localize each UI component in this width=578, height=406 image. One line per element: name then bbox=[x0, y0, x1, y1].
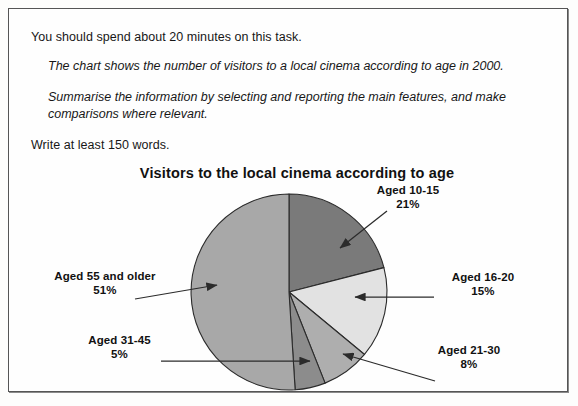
slice-label-text-aged-10-15: Aged 10-15 bbox=[377, 184, 439, 196]
task-prompt-line-2: Summarise the information by selecting a… bbox=[48, 89, 551, 106]
pie-chart-plot-area: Aged 10-15 21% Aged 16-20 15% Aged 21-30… bbox=[17, 157, 577, 406]
slice-value-aged-21-30: 8% bbox=[413, 357, 525, 371]
exam-question-frame: You should spend about 20 minutes on thi… bbox=[8, 8, 568, 392]
pie-chart-figure: Visitors to the local cinema according t… bbox=[17, 157, 577, 406]
slice-label-aged-31-45: Aged 31-45 5% bbox=[67, 333, 172, 361]
slice-label-aged-55-older: Aged 55 and older 51% bbox=[35, 269, 175, 297]
task-prompt-line-3: comparisons where relevant. bbox=[48, 106, 551, 123]
slice-label-text-aged-31-45: Aged 31-45 bbox=[88, 334, 150, 346]
page-canvas: You should spend about 20 minutes on thi… bbox=[0, 0, 578, 406]
task-word-count-note: Write at least 150 words. bbox=[31, 137, 551, 153]
slice-label-aged-16-20: Aged 16-20 15% bbox=[427, 270, 539, 298]
slice-value-aged-31-45: 5% bbox=[67, 347, 172, 361]
slice-value-aged-16-20: 15% bbox=[427, 284, 539, 298]
slice-label-text-aged-55-older: Aged 55 and older bbox=[54, 270, 155, 282]
slice-label-aged-10-15: Aged 10-15 21% bbox=[353, 183, 463, 211]
task-prompt-line-1: The chart shows the number of visitors t… bbox=[48, 58, 551, 75]
slice-label-text-aged-16-20: Aged 16-20 bbox=[452, 271, 514, 283]
slice-value-aged-55-older: 51% bbox=[35, 283, 175, 297]
task-prompt-block: You should spend about 20 minutes on thi… bbox=[31, 29, 551, 153]
slice-label-text-aged-21-30: Aged 21-30 bbox=[438, 344, 500, 356]
slice-label-aged-21-30: Aged 21-30 8% bbox=[413, 343, 525, 371]
task-instruction-line: You should spend about 20 minutes on thi… bbox=[31, 29, 551, 45]
slice-value-aged-10-15: 21% bbox=[353, 197, 463, 211]
